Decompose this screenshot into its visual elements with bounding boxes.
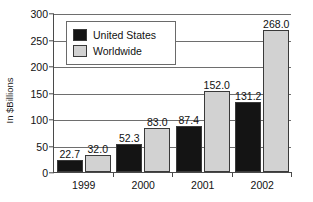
y-tick-label: 100 <box>30 114 48 126</box>
y-tick-label: 250 <box>30 35 48 47</box>
bar-2000-worldwide[interactable]: 83.0 <box>144 128 170 172</box>
x-tick-mark <box>232 172 233 177</box>
bar-2002-united-states[interactable]: 131.2 <box>235 102 261 172</box>
bar-group: 87.4152.02001 <box>173 14 233 172</box>
x-tick-mark <box>172 172 173 177</box>
x-tick-label-2000: 2000 <box>132 179 155 191</box>
legend-item-worldwide[interactable]: Worldwide <box>73 43 169 59</box>
bar-2000-united-states[interactable]: 52.3 <box>116 144 142 172</box>
y-axis-title-text: In $Billions <box>5 77 16 123</box>
y-tick-label: 300 <box>30 8 48 20</box>
legend-swatch-icon <box>73 29 87 41</box>
x-tick-mark <box>113 172 114 177</box>
y-tick-label: 0 <box>42 167 48 179</box>
bar-chart: In $Billions 05010015020025030022.732.01… <box>0 0 313 202</box>
bar-value-label: 22.7 <box>60 148 80 160</box>
legend-item-united-states[interactable]: United States <box>73 27 169 43</box>
bar-value-label: 131.2 <box>235 90 261 102</box>
x-tick-label-1999: 1999 <box>72 179 95 191</box>
x-tick-label-2001: 2001 <box>191 179 214 191</box>
legend-swatch-icon <box>73 45 87 57</box>
chart-legend: United StatesWorldwide <box>66 21 176 65</box>
y-tick-label: 150 <box>30 88 48 100</box>
bar-value-label: 87.4 <box>179 114 199 126</box>
bar-value-label: 268.0 <box>263 18 289 30</box>
legend-label: Worldwide <box>93 45 142 57</box>
bar-group: 131.2268.02002 <box>233 14 293 172</box>
bar-1999-worldwide[interactable]: 32.0 <box>85 155 111 172</box>
y-axis-title: In $Billions <box>2 55 18 145</box>
legend-label: United States <box>93 29 156 41</box>
x-tick-label-2002: 2002 <box>251 179 274 191</box>
bar-value-label: 83.0 <box>147 116 167 128</box>
y-tick-label: 50 <box>36 141 48 153</box>
bar-value-label: 52.3 <box>119 132 139 144</box>
x-tick-mark <box>291 172 292 177</box>
bar-2002-worldwide[interactable]: 268.0 <box>263 30 289 172</box>
bar-value-label: 152.0 <box>204 79 230 91</box>
bar-2001-worldwide[interactable]: 152.0 <box>204 91 230 172</box>
bar-value-label: 32.0 <box>88 143 108 155</box>
bar-2001-united-states[interactable]: 87.4 <box>176 126 202 172</box>
y-tick-label: 200 <box>30 61 48 73</box>
y-tick-mark <box>49 172 54 173</box>
bar-1999-united-states[interactable]: 22.7 <box>57 160 83 172</box>
